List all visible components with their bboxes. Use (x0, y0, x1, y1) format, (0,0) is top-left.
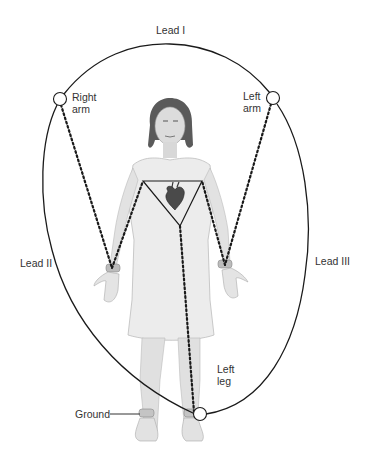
left-arm-label-line2: arm (243, 102, 261, 114)
right-arm-label-line2: arm (72, 103, 97, 115)
lead-iii-label: Lead III (315, 255, 350, 267)
left-leg-label-line1: Left (217, 363, 235, 375)
left-arm-label: Left arm (243, 90, 261, 114)
left-leg-label: Left leg (217, 363, 235, 387)
left-arm-label-line1: Left (243, 90, 261, 102)
einthoven-diagram: Lead I Right arm Left arm Lead II Lead I… (0, 0, 368, 458)
right-arm-electrode (54, 93, 67, 106)
right-arm-label-line1: Right (72, 91, 97, 103)
lead-i-curve (64, 44, 270, 94)
human-figure (94, 98, 248, 441)
left-arm-electrode (267, 92, 280, 105)
right-arm-label: Right arm (72, 91, 97, 115)
ground-label: Ground (75, 408, 110, 420)
left-leg-label-line2: leg (217, 375, 235, 387)
lead-ii-label: Lead II (20, 257, 52, 269)
left-leg-electrode (194, 408, 207, 421)
diagram-graphics (0, 0, 368, 458)
lead-i-label: Lead I (156, 24, 185, 36)
